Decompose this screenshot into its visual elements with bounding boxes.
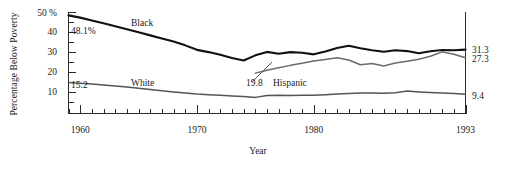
start-value-black: 48.1% <box>71 26 96 36</box>
poverty-line-chart: Percentage Below Poverty 50 % 40 30 20 1… <box>0 0 510 171</box>
series-label-hispanic: Hispanic <box>273 78 307 88</box>
series-line-hispanic <box>255 52 465 73</box>
start-value-white: 15.2 <box>71 80 88 90</box>
x-tick-label-1993: 1993 <box>456 125 475 135</box>
series-line-black <box>69 15 466 60</box>
x-axis-ticks <box>70 105 467 114</box>
start-value-hispanic: 19.8 <box>246 78 263 88</box>
x-tick-label-1970: 1970 <box>187 125 206 135</box>
x-tick-labels: 1960197019801993 <box>71 125 476 135</box>
y-tick-label-50: 50 % <box>37 8 57 18</box>
x-tick-label-1980: 1980 <box>304 125 323 135</box>
y-axis-title: Percentage Below Poverty <box>9 12 19 115</box>
end-value-white: 9.4 <box>472 91 484 101</box>
end-value-hispanic: 27.3 <box>472 54 489 64</box>
y-tick-label-40: 40 <box>48 27 58 37</box>
y-tick-labels: 50 % 40 30 20 10 <box>37 8 57 97</box>
plot-frame <box>69 12 466 114</box>
x-axis-title: Year <box>249 146 267 156</box>
chart-svg: Percentage Below Poverty 50 % 40 30 20 1… <box>0 0 510 171</box>
y-tick-label-30: 30 <box>48 47 58 57</box>
x-tick-label-1960: 1960 <box>71 125 90 135</box>
series-label-white: White <box>131 78 154 88</box>
series-label-black: Black <box>131 18 153 28</box>
y-tick-label-10: 10 <box>48 87 58 97</box>
y-tick-label-20: 20 <box>48 67 58 77</box>
series-line-white <box>69 82 466 97</box>
